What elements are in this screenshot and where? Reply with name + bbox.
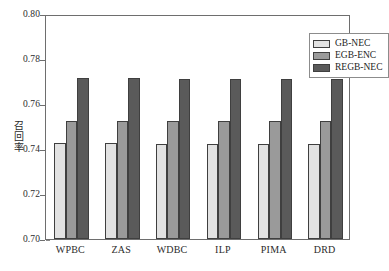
legend-swatch-egb-enc	[313, 52, 330, 60]
bar	[156, 144, 168, 239]
bar	[167, 121, 179, 239]
y-tick-label: 0.78	[6, 55, 40, 65]
x-tick-label: ILP	[215, 244, 231, 255]
y-tick-label: 0.80	[6, 10, 40, 20]
legend-label: EGB-ENC	[335, 51, 376, 61]
x-tick-label: ZAS	[112, 244, 132, 255]
bar-group	[156, 16, 191, 239]
legend-label: GB-NEC	[335, 39, 370, 49]
legend-label: REGB-NEC	[335, 63, 383, 73]
bar	[258, 144, 270, 239]
bar-group	[258, 16, 293, 239]
legend-swatch-regb-nec	[313, 64, 330, 72]
bar	[269, 121, 281, 239]
y-tick-label: 0.74	[6, 145, 40, 155]
bar	[308, 144, 320, 239]
x-tick-label: DRD	[314, 244, 336, 255]
y-tick-mark-inner	[46, 240, 50, 241]
x-tick-label: PIMA	[261, 244, 287, 255]
bar	[207, 144, 219, 239]
bar	[105, 143, 117, 239]
y-tick-label: 0.70	[6, 235, 40, 245]
bar	[281, 79, 293, 239]
x-tick-label: WDBC	[157, 244, 188, 255]
bar-group	[207, 16, 242, 239]
legend-item[interactable]: EGB-ENC	[313, 50, 384, 61]
legend-item[interactable]: GB-NEC	[313, 38, 384, 49]
y-tick-label: 0.76	[6, 100, 40, 110]
bar	[54, 143, 66, 239]
bar	[320, 121, 332, 239]
bar	[218, 121, 230, 239]
y-tick-mark	[40, 240, 45, 241]
x-tick-label: WPBC	[56, 244, 85, 255]
bar-group	[105, 16, 140, 239]
bar-group	[54, 16, 89, 239]
bar	[117, 121, 129, 239]
bar	[77, 78, 89, 239]
bar	[230, 79, 242, 239]
legend-item[interactable]: REGB-NEC	[313, 62, 384, 73]
bar	[331, 79, 343, 239]
chart-legend: GB-NECEGB-ENCREGB-NEC	[309, 33, 389, 78]
bar	[128, 78, 140, 239]
bar	[66, 121, 78, 239]
legend-swatch-gb-nec	[313, 40, 330, 48]
bar	[179, 79, 191, 239]
y-tick-label: 0.72	[6, 190, 40, 200]
plot-area: GB-NECEGB-ENCREGB-NEC	[45, 15, 350, 240]
